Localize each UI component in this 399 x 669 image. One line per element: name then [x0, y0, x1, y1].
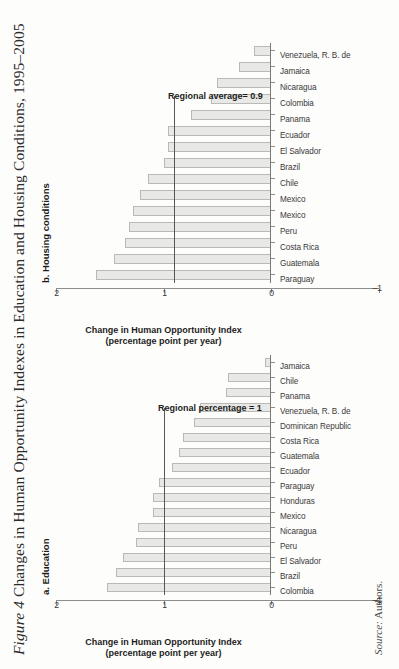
tick-slot	[271, 385, 275, 400]
category-label-slot: Mexico	[276, 505, 358, 520]
category-label-slot: Honduras	[276, 490, 358, 505]
category-tick	[271, 512, 275, 513]
tick-slot	[271, 430, 275, 445]
source-label: Source:	[372, 621, 384, 655]
value-axis-education: –1012	[56, 600, 379, 601]
tick-slot	[271, 267, 275, 283]
tick-slot	[271, 139, 275, 155]
category-ticks-housing	[271, 43, 275, 283]
category-label: Paraguay	[280, 483, 314, 492]
reference-line-label-education: Regional percentage = 1	[158, 403, 262, 413]
category-label: Nicaragua	[280, 528, 316, 537]
category-label: Peru	[280, 543, 297, 552]
category-label: El Salvador	[280, 558, 321, 567]
bar	[96, 270, 271, 279]
bar-slot	[56, 155, 271, 171]
category-tick	[271, 587, 275, 588]
category-tick	[271, 527, 275, 528]
category-labels-education: ColombiaBrazilEl SalvadorPeruNicaraguaMe…	[276, 355, 358, 595]
bar	[226, 388, 271, 397]
bar-slot	[56, 203, 271, 219]
category-label-slot: Venezuela, R. B. de	[276, 400, 358, 415]
tick-slot	[271, 171, 275, 187]
category-label-slot: Costa Rica	[276, 235, 358, 251]
bar-series-housing	[56, 43, 271, 283]
value-tick-label: 0	[269, 288, 274, 298]
category-label-slot: Paraguay	[276, 475, 358, 490]
tick-slot	[271, 355, 275, 370]
axis-title-housing: Change in Human Opportunity Index (perce…	[56, 325, 271, 348]
category-tick	[271, 211, 275, 212]
bar	[125, 238, 271, 247]
tick-slot	[271, 400, 275, 415]
tick-slot	[271, 187, 275, 203]
bar	[179, 448, 271, 457]
value-tick-label: 2	[54, 600, 59, 610]
category-tick	[271, 99, 275, 100]
tick-slot	[271, 123, 275, 139]
category-label-slot: Guatemala	[276, 445, 358, 460]
tick-slot	[271, 445, 275, 460]
bar	[123, 553, 271, 562]
bar-slot	[56, 235, 271, 251]
category-label-slot: Guatemala	[276, 251, 358, 267]
tick-slot	[271, 475, 275, 490]
bar	[129, 222, 271, 231]
source-text: Authors.	[372, 581, 384, 621]
category-label-slot: Peru	[276, 219, 358, 235]
bar	[133, 206, 271, 215]
category-label: Honduras	[280, 498, 315, 507]
category-label: Mexico	[280, 513, 305, 522]
bar	[153, 493, 271, 502]
bar-slot	[56, 171, 271, 187]
chart-panel-housing: b. Housing conditions –1012 Change in Hu…	[40, 39, 360, 339]
bar-slot	[56, 75, 271, 91]
bar	[138, 523, 271, 532]
category-label: Jamaica	[280, 67, 310, 76]
axis-title-line2: (percentage point per year)	[105, 648, 221, 658]
figure-number: Figure 4	[10, 601, 27, 655]
category-label: Colombia	[280, 588, 314, 597]
bar	[148, 174, 271, 183]
value-tick-label: –1	[372, 283, 382, 293]
tick-slot	[271, 235, 275, 251]
category-label-slot: Brazil	[276, 155, 358, 171]
category-label-slot: Jamaica	[276, 355, 358, 370]
category-label: Chile	[280, 378, 298, 387]
bar	[107, 583, 271, 592]
category-ticks-education	[271, 355, 275, 595]
plot-area-education: Regional percentage = 1	[56, 355, 271, 595]
tick-slot	[271, 91, 275, 107]
bar-slot	[56, 43, 271, 59]
tick-slot	[271, 550, 275, 565]
category-tick	[271, 362, 275, 363]
panel-title-education: a. Education	[40, 539, 51, 595]
category-label-slot: Jamaica	[276, 59, 358, 75]
category-tick	[271, 392, 275, 393]
tick-slot	[271, 59, 275, 75]
bar-slot	[56, 107, 271, 123]
bar	[164, 158, 272, 167]
tick-slot	[271, 75, 275, 91]
tick-slot	[271, 565, 275, 580]
category-label-slot: Brazil	[276, 565, 358, 580]
category-label: El Salvador	[280, 147, 321, 156]
category-tick	[271, 497, 275, 498]
bar	[168, 126, 271, 135]
category-tick	[271, 163, 275, 164]
tick-slot	[271, 107, 275, 123]
category-label: Panama	[280, 115, 310, 124]
category-label-slot: Nicaragua	[276, 520, 358, 535]
tick-slot	[271, 219, 275, 235]
category-tick	[271, 467, 275, 468]
category-tick	[271, 452, 275, 453]
category-label-slot: Costa Rica	[276, 430, 358, 445]
category-tick	[271, 115, 275, 116]
category-tick	[271, 422, 275, 423]
bar-slot	[56, 187, 271, 203]
bar	[168, 142, 271, 151]
bar-slot	[56, 123, 271, 139]
tick-slot	[271, 460, 275, 475]
bar	[239, 62, 271, 71]
bar	[159, 478, 271, 487]
